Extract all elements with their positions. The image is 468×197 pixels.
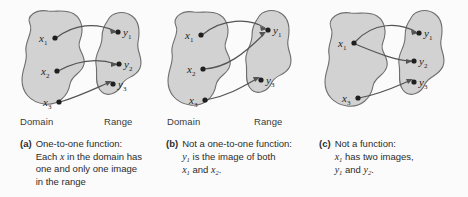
caption-c-line2-post: has two images, [342,151,413,162]
caption-b-line2-post: is the image of both [190,151,276,162]
dot-x2-a [54,68,59,73]
caption-tag-b: (b) [152,138,182,151]
range-label-b: Range [254,116,283,127]
caption-a-line3: one and only one image [36,163,142,176]
domain-label-a: Domain [20,116,53,127]
dot-x3-a [56,99,61,104]
dot-x1-a [52,35,57,40]
caption-lines-b: Not a one-to-one function: y1 is the ima… [182,138,292,178]
caption-b-l3-v1: x [182,164,186,175]
domain-label-b: Domain [167,116,200,127]
caption-a-line4: in the range [36,176,142,189]
caption-b-line1: Not a one-to-one function: [182,138,292,151]
caption-c: (c) Not a function: x1 has two images, y… [307,138,468,178]
caption-b-l3-end: . [219,164,222,175]
range-label-a: Range [104,116,133,127]
caption-b-line2-var: y1 [182,151,190,162]
dot-x2-b [200,66,205,71]
dot-y3-a [110,81,115,86]
caption-c-line2: x1 has two images, [335,151,414,165]
panel-b: x1 x2 x3 y1 y3 Domain Range (b) Not a on… [152,0,307,197]
domain-blob-b [168,12,230,106]
dot-y1-a [115,29,120,34]
caption-b-line2: y1 is the image of both [182,151,292,165]
caption-a-line2: Each x in the domain has [36,151,142,164]
caption-b-line3: x1 and x2. [182,164,292,178]
panel-a-diagram: x1 x2 x3 y1 y2 y3 [0,2,152,118]
caption-c-l3-s1: 1 [339,169,342,176]
dot-y1-b [265,27,270,32]
caption-a-line2-post: in the domain has [64,151,142,162]
caption-a-line2-pre: Each [36,151,60,162]
caption-lines-c: Not a function: x1 has two images, y1 an… [335,138,414,178]
dot-y3-b [258,77,263,82]
panel-b-set-labels: Domain Range [152,116,307,132]
caption-c-line1: Not a function: [335,138,414,151]
caption-b-l2-s: 1 [187,156,190,163]
panel-b-diagram: x1 x2 x3 y1 y3 [152,2,307,118]
function-mapping-figure: x1 x2 x3 y1 y2 y3 Domain Range (a) One-t… [0,0,468,197]
caption-c-line3: y1 and y2. [335,164,414,178]
caption-b: (b) Not a one-to-one function: y1 is the… [152,138,307,178]
panel-a: x1 x2 x3 y1 y2 y3 Domain Range (a) One-t… [0,0,152,197]
caption-b-line3-var2: x2 [211,164,219,175]
caption-b-l2-v: y [182,151,186,162]
caption-b-line3-var1: x1 [182,164,190,175]
caption-lines-a: One-to-one function: Each x in the domai… [36,138,142,188]
dot-y2-c [411,58,416,63]
caption-tag-c: (c) [307,138,335,151]
caption-c-l3-s2: 2 [368,169,371,176]
caption-c-l3-mid: and [342,164,363,175]
caption-a: (a) One-to-one function: Each x in the d… [0,138,152,188]
caption-c-l3-end: . [371,164,374,175]
dot-y2-a [116,61,121,66]
panel-a-set-labels: Domain Range [0,116,152,132]
caption-c-l2-s: 1 [339,156,342,163]
dot-y1-c [416,30,421,35]
dot-x1-b [198,32,203,37]
caption-b-l3-s1: 1 [187,169,190,176]
panel-c-diagram: x1 x3 y1 y2 y3 [307,2,468,118]
dot-x1-c [351,40,356,45]
domain-blob-a [22,11,84,105]
dot-x3-b [202,97,207,102]
caption-b-l3-s2: 2 [215,169,218,176]
dot-x3-c [355,95,360,100]
panel-c: x1 x3 y1 y2 y3 (c) Not a function: x1 ha… [307,0,468,197]
dot-y3-c [411,79,416,84]
caption-tag-a: (a) [0,138,36,151]
caption-a-line1: One-to-one function: [36,138,142,151]
caption-b-l3-mid: and [190,164,211,175]
